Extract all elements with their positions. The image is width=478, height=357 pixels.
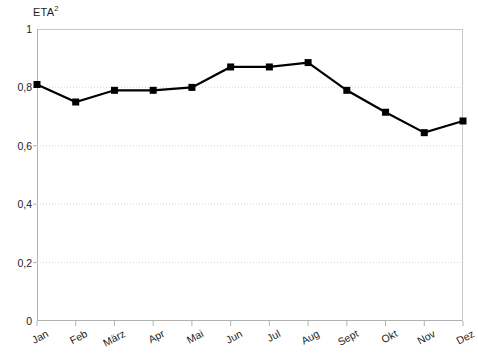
plot-area <box>37 29 463 321</box>
y-axis-tick-label: 0,4 <box>2 199 32 210</box>
y-axis-tick-label: 0,6 <box>2 140 32 151</box>
y-axis-tick-labels: 00,20,40,60,81 <box>0 29 32 321</box>
chart-container: ETA2 00,20,40,60,81 JanFebMärzAprMaiJunJ… <box>0 0 478 357</box>
y-axis-tick-label: 0,2 <box>2 257 32 268</box>
y-axis-tick-label: 0 <box>2 316 32 327</box>
chart-title: ETA2 <box>33 6 59 19</box>
y-axis-tick-label: 0,8 <box>2 82 32 93</box>
x-axis-tick-labels: JanFebMärzAprMaiJunJulAugSeptOktNovDez <box>37 322 463 357</box>
chart-title-superscript: 2 <box>54 4 58 13</box>
y-axis-tick-label: 1 <box>2 24 32 35</box>
chart-title-text: ETA <box>33 6 54 18</box>
